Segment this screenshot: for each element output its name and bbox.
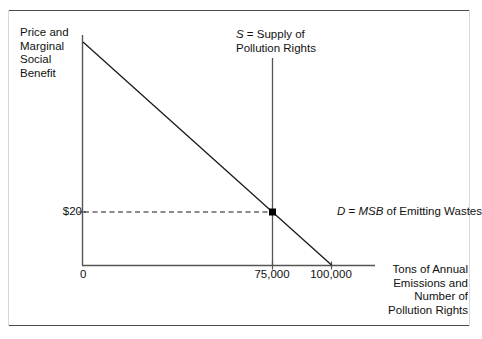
demand-curve-label: D = MSB of Emitting Wastes (337, 205, 482, 219)
x-axis-title: Tons of Annual Emissions and Number of P… (372, 263, 468, 317)
demand-label-rest: of Emitting Wastes (383, 205, 482, 217)
supply-label-line2: Pollution Rights (236, 42, 316, 54)
x-tick-label-100000: 100,000 (303, 268, 359, 282)
msb-symbol: MSB (358, 205, 383, 217)
supply-curve-label: S = Supply of Pollution Rights (236, 28, 316, 55)
y-axis-title: Price and Marginal Social Benefit (20, 26, 69, 80)
demand-curve-line (83, 42, 332, 265)
equilibrium-point-marker (269, 209, 276, 216)
y-tick-label-20: $20 (54, 205, 82, 219)
origin-label: 0 (80, 268, 86, 282)
demand-label-equals: = (345, 205, 358, 217)
supply-label-rest: = Supply of (244, 28, 305, 40)
x-tick-label-75000: 75,000 (247, 268, 297, 282)
supply-symbol: S (236, 28, 244, 40)
